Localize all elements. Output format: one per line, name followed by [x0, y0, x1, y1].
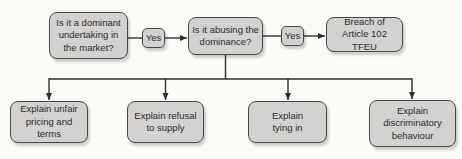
node-breach-article-102: Breach of Article 102 TFEU [326, 17, 403, 52]
node-yes-2: Yes [281, 26, 304, 46]
node-explain-unfair-pricing: Explain unfair pricing and terms [10, 101, 88, 143]
node-explain-tying-in: Explain tying in [248, 101, 327, 143]
node-explain-refusal-to-supply: Explain refusal to supply [127, 101, 204, 143]
node-abusing-dominance-question: Is it abusing the dominance? [188, 17, 263, 55]
node-dominant-undertaking-question: Is it a dominant undertaking in the mark… [49, 12, 128, 59]
flowchart: Is it a dominant undertaking in the mark… [0, 0, 462, 159]
node-yes-1: Yes [142, 28, 165, 48]
node-explain-discriminatory-behaviour: Explain discriminatory behaviour [369, 100, 456, 147]
